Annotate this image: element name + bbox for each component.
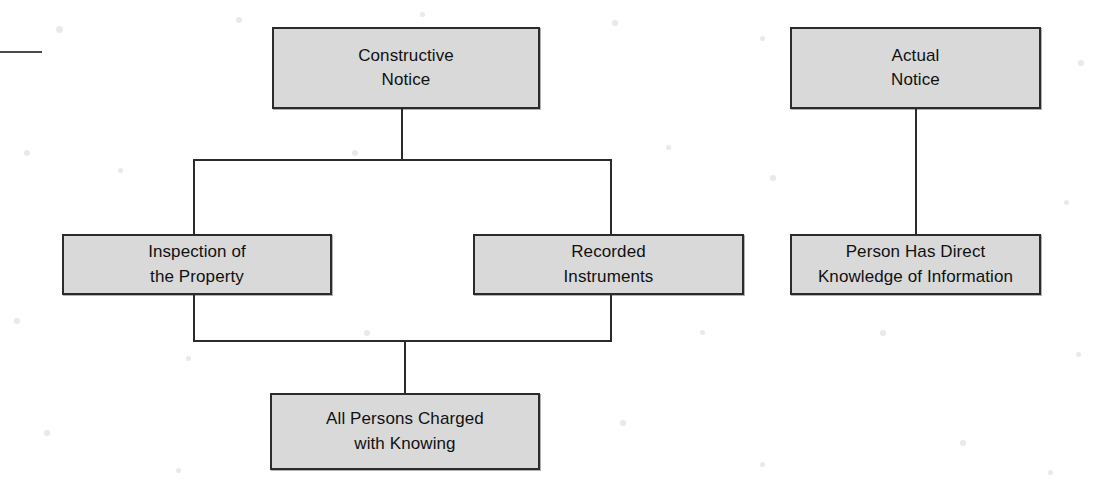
connector-branch-to-recorded xyxy=(610,159,612,235)
node-inspection-of-the-property: Inspection of the Property xyxy=(62,234,332,295)
connector-inspection-stem-down xyxy=(193,295,195,342)
connector-merge-bar-to-all-persons xyxy=(193,340,612,342)
node-all-persons-charged-with-knowing: All Persons Charged with Knowing xyxy=(270,393,540,470)
paper-speck xyxy=(770,175,776,181)
paper-speck xyxy=(364,330,370,336)
connector-constructive-split-bar xyxy=(193,159,612,161)
node-recorded-instruments: Recorded Instruments xyxy=(473,234,744,295)
paper-speck xyxy=(612,20,618,26)
node-label-recorded-instruments: Recorded Instruments xyxy=(558,240,660,288)
paper-speck xyxy=(352,150,358,156)
paper-speck xyxy=(44,430,50,436)
node-label-all-persons-charged-with-knowing: All Persons Charged with Knowing xyxy=(320,407,490,455)
node-label-person-has-direct-knowledge: Person Has Direct Knowledge of Informati… xyxy=(812,240,1019,288)
paper-speck xyxy=(236,17,242,23)
paper-speck xyxy=(666,145,671,150)
connector-constructive-stem-down xyxy=(401,109,403,161)
paper-speck xyxy=(118,168,123,173)
paper-speck xyxy=(1048,470,1053,475)
connector-actual-notice-stem-down xyxy=(915,109,917,235)
diagram-canvas: Constructive NoticeActual NoticeInspecti… xyxy=(0,0,1101,492)
paper-speck xyxy=(1076,352,1081,357)
paper-speck xyxy=(620,420,626,426)
paper-speck xyxy=(420,12,425,17)
node-label-inspection-of-the-property: Inspection of the Property xyxy=(142,240,252,288)
node-label-actual-notice: Actual Notice xyxy=(885,44,946,92)
paper-speck xyxy=(960,440,966,446)
paper-speck xyxy=(760,462,765,467)
paper-speck xyxy=(760,36,765,41)
connector-all-persons-stem-down xyxy=(404,340,406,394)
connector-branch-to-inspection xyxy=(193,159,195,235)
paper-speck xyxy=(56,26,63,33)
node-constructive-notice: Constructive Notice xyxy=(272,27,540,109)
artifact-left-margin-scan-line xyxy=(0,51,42,53)
paper-speck xyxy=(1078,60,1084,66)
node-actual-notice: Actual Notice xyxy=(790,27,1041,109)
paper-speck xyxy=(1064,200,1069,205)
paper-speck xyxy=(24,150,30,156)
paper-speck xyxy=(186,356,191,361)
paper-speck xyxy=(700,330,705,335)
paper-speck xyxy=(880,330,886,336)
connector-recorded-stem-down xyxy=(610,295,612,342)
node-label-constructive-notice: Constructive Notice xyxy=(352,44,460,92)
paper-speck xyxy=(176,468,181,473)
node-person-has-direct-knowledge: Person Has Direct Knowledge of Informati… xyxy=(790,234,1041,295)
paper-speck xyxy=(14,318,20,324)
